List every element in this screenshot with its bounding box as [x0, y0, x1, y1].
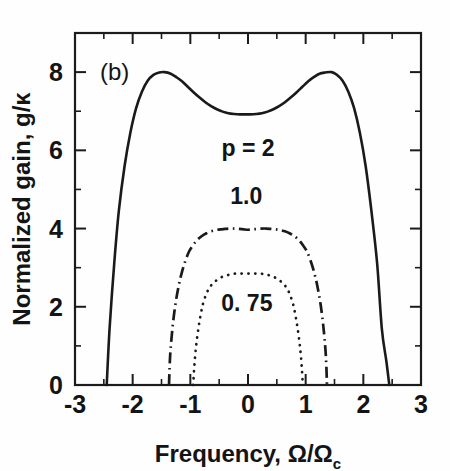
- curve-label-0: p = 2: [221, 135, 274, 161]
- x-axis-title: Frequency, Ω/Ωc: [155, 440, 341, 471]
- gain-vs-frequency-chart: -3-2-10123 02468 p = 21.00. 75 (b) Frequ…: [0, 0, 450, 471]
- y-tick-label: 2: [49, 293, 63, 321]
- x-axis-title-main: Frequency, Ω/Ω: [155, 440, 333, 467]
- y-tick-label: 0: [49, 371, 63, 399]
- y-tick-label: 6: [49, 136, 63, 164]
- x-tick-label: -1: [179, 390, 201, 418]
- x-tick-label: -3: [64, 390, 86, 418]
- y-axis-title: Normalized gain, g/κ: [8, 92, 35, 326]
- x-tick-label: 3: [414, 390, 428, 418]
- curve-annotations: p = 21.00. 75: [221, 135, 274, 315]
- curve-label-2: 0. 75: [221, 290, 272, 316]
- figure-panel-b: -3-2-10123 02468 p = 21.00. 75 (b) Frequ…: [0, 0, 450, 471]
- y-axis-tick-labels: 02468: [49, 58, 63, 399]
- x-tick-label: 0: [241, 390, 255, 418]
- x-tick-label: 2: [356, 390, 370, 418]
- x-tick-label: -2: [122, 390, 144, 418]
- y-tick-label: 8: [49, 58, 63, 86]
- data-curves: [107, 72, 390, 385]
- panel-label: (b): [100, 58, 129, 85]
- x-axis-title-subscript: c: [333, 455, 341, 471]
- curve-label-1: 1.0: [230, 183, 262, 209]
- x-axis-tick-labels: -3-2-10123: [64, 390, 428, 418]
- y-tick-label: 4: [49, 215, 63, 243]
- x-tick-label: 1: [299, 390, 313, 418]
